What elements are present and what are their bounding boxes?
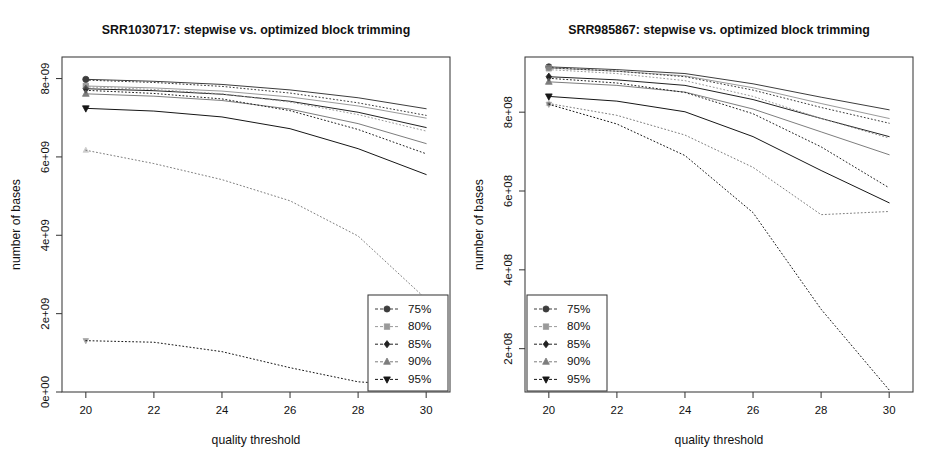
y-tick-label-2e+08: 2e+08 <box>502 333 514 365</box>
legend-label-90: 90% <box>408 354 431 367</box>
x-tick-label-24: 24 <box>679 404 692 416</box>
panel-left: SRR1030717: stepwise vs. optimized block… <box>0 0 463 465</box>
series-marker-95-stepwise <box>83 339 88 344</box>
legend-marker-square-icon <box>543 324 548 329</box>
figure-container: SRR1030717: stepwise vs. optimized block… <box>0 0 926 465</box>
plot-svg-left: SRR1030717: stepwise vs. optimized block… <box>0 0 463 465</box>
panel-right: SRR985867: stepwise vs. optimized block … <box>463 0 926 465</box>
legend-marker-circle-icon <box>543 306 549 312</box>
x-tick-label-26: 26 <box>747 404 760 416</box>
series-marker-80-stepwise <box>547 67 551 71</box>
y-tick-label-6e+09: 6e+09 <box>39 141 51 173</box>
x-tick-label-28: 28 <box>815 404 828 416</box>
legend-label-80: 80% <box>567 319 590 332</box>
legend-label-95: 95% <box>408 372 431 385</box>
plot-title: SRR985867: stepwise vs. optimized block … <box>568 23 870 37</box>
x-tick-label-30: 30 <box>883 404 896 416</box>
y-tick-label-2e+09: 2e+09 <box>39 298 51 330</box>
series-line-75-stepwise <box>549 68 889 124</box>
series-line-80-optimized <box>86 86 426 118</box>
x-tick-label-22: 22 <box>611 404 624 416</box>
y-tick-label-0e+00: 0e+00 <box>39 376 51 408</box>
x-tick-label-22: 22 <box>148 404 161 416</box>
legend-label-75: 75% <box>567 302 590 315</box>
x-tick-label-26: 26 <box>284 404 297 416</box>
series-line-90-stepwise <box>86 150 426 299</box>
plot-title: SRR1030717: stepwise vs. optimized block… <box>102 23 411 37</box>
x-tick-label-20: 20 <box>542 404 555 416</box>
y-tick-label-8e+09: 8e+09 <box>39 63 51 95</box>
x-tick-label-28: 28 <box>352 404 365 416</box>
legend-label-85: 85% <box>567 337 590 350</box>
series-marker-75-stepwise <box>83 78 88 83</box>
y-tick-label-6e+08: 6e+08 <box>502 175 514 207</box>
x-tick-label-24: 24 <box>216 404 229 416</box>
series-line-90-stepwise <box>549 104 889 215</box>
legend-label-75: 75% <box>408 302 431 315</box>
legend-label-95: 95% <box>567 372 590 385</box>
y-tick-label-8e+08: 8e+08 <box>502 96 514 128</box>
series-line-85-optimized <box>549 77 889 137</box>
series-marker-95-optimized <box>82 106 89 112</box>
legend-marker-square-icon <box>384 324 389 329</box>
series-line-85-stepwise <box>86 90 426 153</box>
legend-label-80: 80% <box>408 319 431 332</box>
legend-marker-circle-icon <box>384 306 390 312</box>
y-tick-label-4e+09: 4e+09 <box>39 219 51 251</box>
plot-svg-right: SRR985867: stepwise vs. optimized block … <box>463 0 926 465</box>
series-line-85-optimized <box>86 89 426 128</box>
y-axis-title: number of bases <box>9 179 23 270</box>
legend-label-90: 90% <box>567 354 590 367</box>
series-marker-90-stepwise <box>83 147 88 152</box>
y-axis-title: number of bases <box>472 179 486 270</box>
series-line-85-stepwise <box>549 78 889 188</box>
legend-label-85: 85% <box>408 337 431 350</box>
x-tick-label-30: 30 <box>420 404 433 416</box>
x-axis-title: quality threshold <box>675 433 764 447</box>
x-axis-title: quality threshold <box>212 433 301 447</box>
y-tick-label-4e+08: 4e+08 <box>502 254 514 286</box>
legend[interactable]: 75%80%85%90%95% <box>368 295 448 391</box>
series-line-80-stepwise <box>549 70 889 139</box>
x-tick-label-20: 20 <box>79 404 92 416</box>
legend[interactable]: 75%80%85%90%95% <box>527 295 607 391</box>
series-line-80-optimized <box>549 68 889 118</box>
